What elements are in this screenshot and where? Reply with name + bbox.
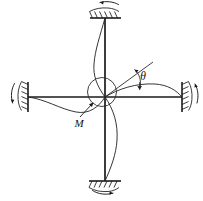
figure-root: θ M [0, 0, 203, 201]
right-fixed-support [182, 82, 198, 113]
theta-label: θ [140, 70, 146, 82]
top-fixed-support [90, 1, 122, 18]
right-support-hatching [182, 82, 192, 111]
top-support-hatching [90, 8, 120, 18]
applied-moment-indicator: M [73, 103, 93, 130]
top-support-rotation-arrow [100, 1, 119, 5]
left-support-rotation-arrow [11, 84, 15, 104]
lower-column-deflection-curve [105, 97, 117, 181]
right-support-rotation-arrow [194, 84, 198, 103]
left-support-hatching [18, 82, 28, 111]
frame-members [28, 18, 182, 181]
left-beam-deflection-curve [28, 97, 105, 112]
upper-column-deflection-curve [94, 18, 105, 97]
frame-deflection-diagram: θ M [0, 0, 203, 201]
bottom-support-hatching [89, 181, 119, 192]
bottom-fixed-support [89, 181, 121, 195]
moment-label: M [73, 117, 84, 129]
left-fixed-support [11, 82, 28, 113]
rotation-angle-indicator: θ [105, 62, 153, 97]
